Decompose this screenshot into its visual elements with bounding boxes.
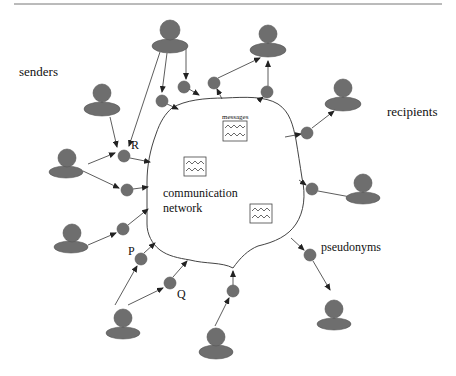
network-label-line1: communication — [163, 186, 238, 200]
pseudonym-node — [178, 81, 190, 93]
sender-bottom — [199, 328, 233, 359]
label-P: P — [128, 244, 135, 258]
sender-top — [152, 20, 188, 53]
network-label-line2: network — [163, 201, 202, 215]
recipient-top — [250, 25, 286, 57]
recipient-right — [325, 79, 361, 111]
pseudonym-node — [306, 183, 318, 195]
pseudonym-node — [301, 127, 313, 139]
label-R: R — [131, 138, 139, 152]
sender-left-low — [54, 224, 88, 253]
message-box-3 — [250, 204, 272, 223]
pseudonym-node-R — [118, 150, 130, 162]
pseudonym-node — [227, 285, 239, 297]
sender-left — [49, 149, 83, 178]
recipient-right-mid — [346, 174, 380, 204]
anonymity-network-diagram: senders recipients messages communicatio… — [0, 0, 456, 376]
sender-left-mid — [84, 84, 120, 116]
message-box-1 — [223, 121, 247, 141]
messages-label: messages — [222, 113, 249, 121]
message-box-2 — [184, 157, 206, 176]
recipients-label: recipients — [387, 104, 438, 119]
senders-label: senders — [19, 64, 58, 79]
pseudonyms-label: pseudonyms — [321, 240, 381, 254]
pseudonym-node — [304, 249, 316, 261]
sender-bottom-left — [106, 309, 140, 339]
pseudonym-node-Q — [164, 277, 176, 289]
label-Q: Q — [177, 287, 186, 301]
pseudonym-node — [156, 95, 168, 107]
pseudonym-node-P — [135, 253, 147, 265]
recipient-bottom-right — [317, 300, 351, 330]
pseudonym-node — [261, 86, 273, 98]
pseudonym-node — [121, 184, 133, 196]
pseudonym-node — [208, 77, 220, 89]
pseudonym-node — [117, 223, 129, 235]
